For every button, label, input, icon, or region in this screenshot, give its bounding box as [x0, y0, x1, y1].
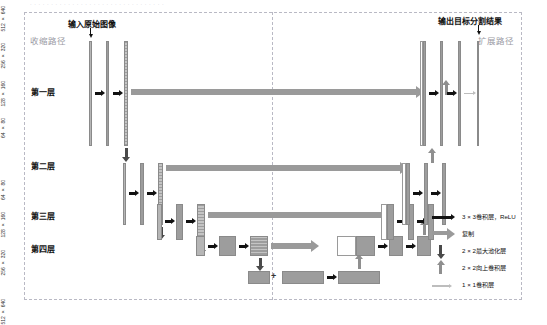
gray-arrow-icon: [432, 226, 458, 243]
bottleneck-block-2: [338, 271, 380, 284]
conv-arrow-l1-b: [113, 92, 120, 95]
legend-item-final-conv: 1 × 1卷积层: [432, 277, 528, 294]
down-arrow-icon: [432, 243, 458, 260]
dim-label-dec-l2: 256 × 320: [0, 250, 6, 275]
encoder-block-l1-2: [124, 41, 128, 146]
channel-label-l1-2: 64: [0, 37, 274, 43]
conv-arrow-dec-l1-b: [447, 92, 454, 95]
encoder-block-l1-0: [89, 41, 92, 146]
channel-label-dec-l4-1: 512: [0, 174, 274, 180]
conv-arrow-l3-b: [186, 220, 193, 223]
conv-arrow-dec-l1-a: [429, 92, 436, 95]
dim-label-l2: 256 × 320: [0, 43, 6, 68]
skip-connection-l3: [208, 212, 388, 218]
decoder-concat-white-l4: [337, 236, 356, 256]
bottleneck-block-1: [282, 271, 324, 284]
up-arrow-icon: [432, 260, 458, 277]
output-arrow-icon: [478, 25, 479, 32]
channel-label-dec-l2-1: 128: [0, 244, 274, 250]
legend-label-copy: 复制: [462, 229, 474, 238]
conv-arrow-l1-a: [95, 92, 102, 95]
encoder-block-l1-1: [106, 41, 109, 146]
upconv-arrow-l2: [431, 152, 434, 163]
conv-arrow-dec-l3-b: [417, 220, 424, 223]
output-block: [477, 41, 479, 146]
conv-arrow-l2-b: [147, 192, 154, 195]
decoder-block-l3-0: [387, 204, 394, 240]
black-arrow-icon: [432, 209, 458, 226]
channel-label-l1-0: 3: [0, 0, 274, 6]
upconv-arrow-l4: [358, 258, 361, 269]
conv-arrow-dec-l4-a: [378, 245, 385, 248]
decoder-block-l2-1: [424, 163, 428, 225]
expanding-path-label: 扩展路径: [478, 34, 514, 46]
channel-label-dec-l3-1: 256: [0, 206, 274, 212]
channel-label-l3-1: 256: [0, 112, 274, 118]
layer-label-1: 第一层: [31, 86, 55, 97]
dim-label-l4: 64 × 80: [0, 118, 6, 138]
dim-label-dec-l3: 128 × 160: [0, 212, 6, 237]
conv-arrow-l2-a: [129, 192, 136, 195]
conv-arrow-dec-l2-a: [413, 192, 420, 195]
dim-label-dec-l4: 64 × 80: [0, 180, 6, 200]
legend-label-final-conv: 1 × 1卷积层: [462, 280, 494, 289]
conv-arrow-l3-a: [165, 220, 172, 223]
dim-label-l1: 512 × 640: [0, 6, 6, 31]
conv-arrow-dec-l4-b: [406, 245, 413, 248]
conv-arrow-bottleneck: [327, 276, 334, 279]
legend-label-upconv: 2 × 2向上卷积层: [462, 263, 506, 272]
legend-item-conv: 3 × 3卷积层，ReLU: [432, 209, 528, 226]
decoder-block-l1-2: [458, 41, 461, 146]
output-result-label: 输出目标分割结果: [438, 15, 502, 26]
maxpool-arrow-l4: [259, 258, 262, 267]
channel-label-l2-1: 128: [0, 75, 274, 81]
skip-connection-l4: [271, 243, 313, 249]
skip-connection-l1: [131, 89, 418, 95]
legend-label-conv: 3 × 3卷积层，ReLU: [462, 212, 516, 221]
input-image-label: 输入原始图像: [68, 18, 116, 29]
decoder-block-l1-0: [423, 41, 426, 146]
channel-label-output: 2: [0, 293, 274, 299]
dim-label-l3: 128 × 160: [0, 81, 6, 106]
upconv-arrow-l3: [423, 224, 426, 235]
conv-arrow-dec-l2-b: [431, 192, 438, 195]
legend-label-maxpool: 2 × 2最大池化层: [462, 246, 506, 255]
dim-label-output: 512 × 640: [0, 299, 6, 324]
legend-item-copy: 复制: [432, 226, 528, 243]
final-conv-arrow: [464, 93, 474, 95]
thin-light-arrow-icon: [432, 277, 458, 294]
decoder-block-l4-0: [356, 236, 375, 256]
decoder-block-l2-0: [406, 163, 410, 225]
legend-item-maxpool: 2 × 2最大池化层: [432, 243, 528, 260]
legend-item-upconv: 2 × 2向上卷积层: [432, 260, 528, 277]
channel-label-l4-1: 512: [0, 144, 274, 150]
legend: 3 × 3卷积层，ReLU 复制 2 × 2最大池化层 2 × 2向上卷积层 1: [432, 209, 528, 294]
decoder-block-l1-1: [440, 41, 443, 146]
